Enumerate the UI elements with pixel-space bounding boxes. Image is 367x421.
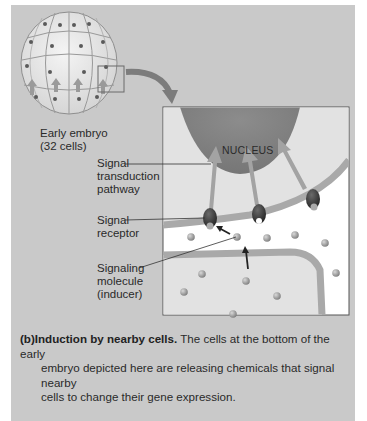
caption-tag: (b) [20, 332, 35, 345]
inset-cell-view [163, 107, 349, 318]
callout-line: Signal [97, 157, 160, 170]
zoom-arrow [126, 72, 178, 104]
embryo-label-line1: Early embryo [40, 127, 108, 140]
caption-text-2: embryo depicted here are releasing chemi… [20, 361, 350, 390]
callout-signal-receptor: Signal receptor [97, 214, 139, 240]
callout-line: receptor [97, 227, 139, 240]
embryo-label: Early embryo (32 cells) [40, 127, 108, 153]
callout-line: Signal [97, 214, 139, 227]
embryo-sphere [21, 12, 124, 114]
embryo-label-line2: (32 cells) [40, 140, 108, 153]
callout-line: Signaling [97, 262, 144, 275]
caption-title: Induction by nearby cells. [35, 332, 177, 345]
figure-caption: (b)Induction by nearby cells. The cells … [20, 332, 350, 405]
callout-signal-transduction-pathway: Signal transduction pathway [97, 157, 160, 196]
callout-line: molecule [97, 275, 144, 288]
callout-line: transduction [97, 170, 160, 183]
callout-signaling-molecule: Signaling molecule (inducer) [97, 262, 144, 301]
nucleus-label: NUCLEUS [222, 144, 274, 156]
callout-line: pathway [97, 183, 160, 196]
callout-line: (inducer) [97, 288, 144, 301]
caption-text-3: cells to change their gene expression. [20, 390, 350, 405]
